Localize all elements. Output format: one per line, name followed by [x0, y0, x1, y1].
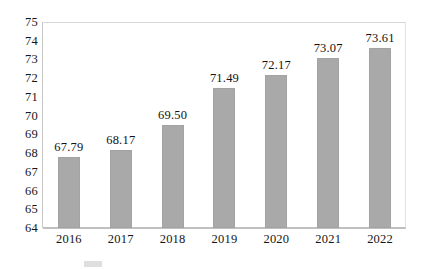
bar[interactable] — [213, 88, 235, 228]
bar-slot: 69.50 — [147, 22, 199, 228]
y-axis-tick-label: 66 — [0, 185, 38, 197]
y-axis-tick-label: 67 — [0, 166, 38, 178]
bar-value-label: 67.79 — [54, 141, 83, 154]
y-axis-tick-label: 64 — [0, 222, 38, 234]
y-axis-tick-label: 73 — [0, 53, 38, 65]
x-axis-tick-label: 2020 — [250, 231, 302, 247]
x-axis-tick-label: 2022 — [354, 231, 406, 247]
x-axis-tick-label: 2018 — [147, 231, 199, 247]
bars-layer: 67.7968.1769.5071.4972.1773.0773.61 — [43, 22, 406, 228]
bar-slot: 67.79 — [43, 22, 95, 228]
bar-slot: 73.61 — [354, 22, 406, 228]
bar-value-label: 73.07 — [314, 42, 343, 55]
caption-strip — [0, 261, 424, 269]
bar-value-label: 72.17 — [262, 59, 291, 72]
bar-value-label: 71.49 — [210, 72, 239, 85]
bar[interactable] — [369, 48, 391, 228]
gridline — [43, 228, 406, 229]
x-axis-tick-label: 2021 — [302, 231, 354, 247]
y-axis-tick-label: 68 — [0, 147, 38, 159]
bar-slot: 73.07 — [302, 22, 354, 228]
y-axis-tick-label: 69 — [0, 128, 38, 140]
bar[interactable] — [317, 58, 339, 228]
bar-chart: 757473727170696867666564 67.7968.1769.50… — [0, 0, 424, 269]
y-axis-tick-label: 74 — [0, 35, 38, 47]
x-axis-tick-label: 2019 — [199, 231, 251, 247]
y-axis: 757473727170696867666564 — [0, 22, 38, 228]
bar-value-label: 73.61 — [366, 32, 395, 45]
x-axis-tick-label: 2017 — [95, 231, 147, 247]
y-axis-tick-label: 71 — [0, 91, 38, 103]
bar[interactable] — [110, 150, 132, 228]
y-axis-tick-label: 75 — [0, 16, 38, 28]
bar-slot: 68.17 — [95, 22, 147, 228]
y-axis-tick-label: 72 — [0, 72, 38, 84]
x-axis: 2016201720182019202020212022 — [43, 231, 406, 251]
bar-value-label: 68.17 — [106, 134, 135, 147]
bar[interactable] — [58, 157, 80, 228]
bar-slot: 72.17 — [250, 22, 302, 228]
caption-fragment — [84, 261, 384, 269]
bar[interactable] — [162, 125, 184, 228]
bar-slot: 71.49 — [199, 22, 251, 228]
x-axis-tick-label: 2016 — [43, 231, 95, 247]
bar[interactable] — [265, 75, 287, 228]
y-axis-tick-label: 70 — [0, 110, 38, 122]
y-axis-tick-label: 65 — [0, 203, 38, 215]
legend-swatch-icon — [84, 261, 102, 267]
bar-value-label: 69.50 — [158, 109, 187, 122]
